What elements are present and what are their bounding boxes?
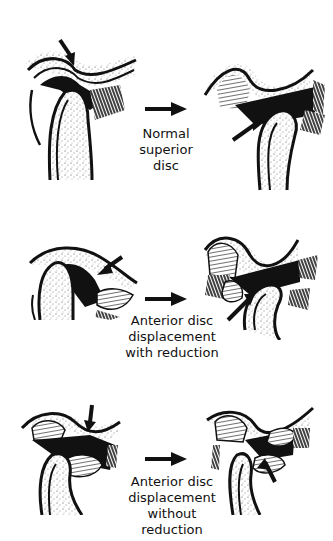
normal-open-illustration <box>195 45 333 195</box>
transition-arrow-3 <box>145 452 187 466</box>
caption-line: reduction <box>120 522 224 538</box>
transition-arrow-1 <box>145 102 187 116</box>
caption-line: disc <box>128 158 204 174</box>
caption-line: Normal <box>128 126 204 142</box>
caption-line: superior <box>128 142 204 158</box>
caption-normal: Normal superior disc <box>128 126 204 174</box>
transition-arrow-2 <box>145 292 187 306</box>
without-reduction-open-illustration <box>205 400 333 515</box>
caption-line: with reduction <box>120 345 224 361</box>
normal-closed-illustration <box>10 30 140 180</box>
with-reduction-closed-illustration <box>25 235 145 320</box>
with-reduction-open-illustration <box>200 230 333 340</box>
